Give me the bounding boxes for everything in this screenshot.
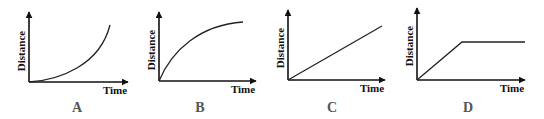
panel-label-c: C (327, 100, 337, 115)
panel-label-d: D (463, 100, 473, 115)
rise-then-plateau-line (417, 42, 525, 80)
x-axis-label: Time (500, 82, 524, 94)
distance-time-graphs: Distance Time A Distance Time B Distance… (0, 0, 544, 119)
x-axis-label: Time (231, 83, 255, 95)
x-axis-label: Time (360, 82, 384, 94)
panel-label-b: B (195, 100, 204, 115)
panel-label-a: A (72, 100, 83, 115)
curve-decelerating (159, 22, 243, 81)
curve-accelerating (29, 25, 110, 82)
graph-d: Distance Time D (403, 8, 525, 115)
constant-slope-line (288, 26, 382, 80)
graph-b: Distance Time B (145, 12, 256, 115)
graph-c: Distance Time C (274, 10, 385, 115)
y-axis-label: Distance (274, 28, 286, 68)
y-axis-label: Distance (15, 31, 27, 71)
y-axis-label: Distance (403, 26, 415, 66)
graph-a: Distance Time A (15, 12, 128, 115)
x-axis-label: Time (103, 84, 127, 96)
y-axis-label: Distance (145, 30, 157, 70)
